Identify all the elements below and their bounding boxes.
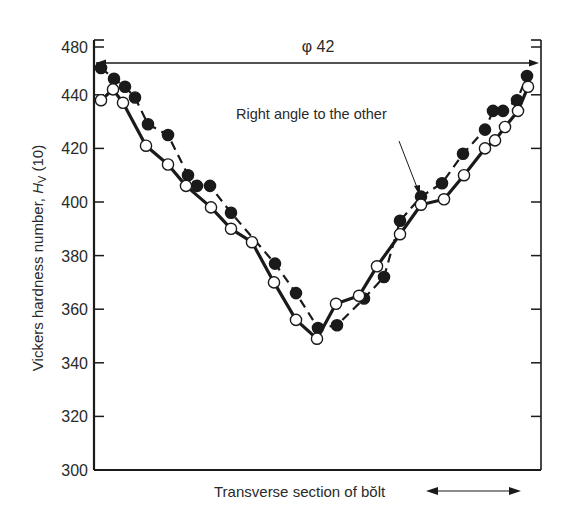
open-circle-marker [489, 135, 500, 146]
diameter-dimension: φ 42 [96, 38, 539, 67]
open-circle-marker [162, 159, 173, 170]
filled-circle-marker [108, 73, 119, 84]
y-axis-title: Vickers hardness number, HV (10) [29, 145, 48, 371]
open-circle-marker [205, 202, 216, 213]
filled-circle-marker [129, 92, 140, 103]
y-tick-label: 320 [61, 408, 88, 425]
y-tick-label: 420 [61, 140, 88, 157]
open-circle-marker [415, 199, 426, 210]
open-circle-marker [458, 170, 469, 181]
double-arrow-right-icon [509, 487, 521, 495]
open-circle-marker [371, 261, 382, 272]
open-circle-marker [499, 121, 510, 132]
open-circle-marker [353, 290, 364, 301]
open-circle-marker [180, 180, 191, 191]
filled-circle-marker [331, 320, 342, 331]
diameter-label: φ 42 [302, 38, 335, 55]
filled-circle-marker [269, 258, 280, 269]
open-circle-marker [512, 105, 523, 116]
open-circle-marker [107, 84, 118, 95]
filled-circle-marker [378, 271, 389, 282]
filled-circle-marker [225, 207, 236, 218]
hardness-chart: 300320340360380400420440480 φ 42 Right a… [0, 0, 573, 518]
filled-circle-marker [497, 105, 508, 116]
open-circle-marker [438, 194, 449, 205]
open-circle-marker [140, 140, 151, 151]
filled-circle-marker [436, 178, 447, 189]
filled-circle-marker [142, 119, 153, 130]
y-tick-label: 400 [61, 194, 88, 211]
open-circle-marker [95, 95, 106, 106]
axes [94, 40, 541, 470]
y-tick-label: 440 [61, 87, 88, 104]
filled-circle-marker [290, 288, 301, 299]
annotation-text: Right angle to the other [236, 106, 387, 122]
y-axis-ticks: 300320340360380400420440480 [61, 39, 541, 479]
x-axis-title-group: Transverse section of bŏlt [214, 483, 521, 500]
filled-circle-marker [521, 70, 532, 81]
filled-circle-marker [191, 180, 202, 191]
double-arrow-left-icon [426, 487, 438, 495]
open-circle-marker [330, 298, 341, 309]
y-tick-label: 360 [61, 301, 88, 318]
open-circle-marker [246, 237, 257, 248]
arrow-right-icon [529, 60, 539, 67]
filled-circle-marker [162, 129, 173, 140]
y-tick-label: 380 [61, 248, 88, 265]
y-tick-label: 480 [61, 39, 88, 56]
y-tick-label: 340 [61, 355, 88, 372]
annotation: Right angle to the other [236, 106, 420, 196]
open-circle-marker [117, 97, 128, 108]
filled-circle-marker [182, 170, 193, 181]
filled-circle-marker [204, 180, 215, 191]
filled-circle-marker [479, 124, 490, 135]
open-circle-marker [311, 333, 322, 344]
filled-circle-marker [119, 81, 130, 92]
x-axis-title: Transverse section of bŏlt [214, 483, 386, 500]
open-circle-marker [225, 223, 236, 234]
filled-circle-marker [457, 148, 468, 159]
filled-circle-marker [394, 215, 405, 226]
open-circle-marker [479, 143, 490, 154]
open-circle-marker [268, 277, 279, 288]
series-filled-dashed [95, 62, 532, 333]
y-tick-label: 300 [61, 462, 88, 479]
open-circle-marker [290, 314, 301, 325]
open-circle-marker [522, 81, 533, 92]
open-circle-marker [394, 229, 405, 240]
